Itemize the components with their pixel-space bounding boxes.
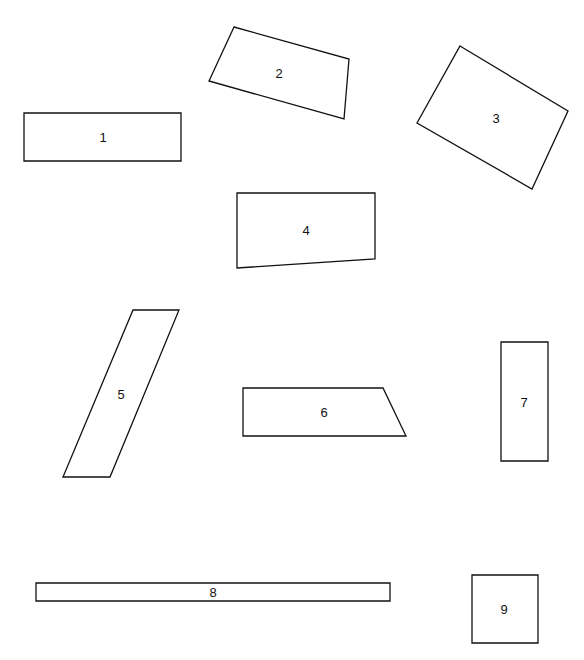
shape-label: 9 <box>500 602 507 617</box>
shape-label: 7 <box>520 395 527 410</box>
shape-1: 1 <box>24 113 181 161</box>
shape-7: 7 <box>501 342 548 461</box>
shape-label: 5 <box>117 387 124 402</box>
shape-9: 9 <box>472 575 538 643</box>
shape-2: 2 <box>209 27 349 119</box>
shape-label: 2 <box>275 66 282 81</box>
shape-3: 3 <box>417 46 568 189</box>
shape-label: 4 <box>302 223 309 238</box>
shape-label: 8 <box>209 585 216 600</box>
shape-label: 1 <box>99 130 106 145</box>
shape-4: 4 <box>237 193 375 268</box>
shapes-layer: 123456789 <box>24 27 568 643</box>
shape-5: 5 <box>63 310 179 477</box>
shape-label: 6 <box>320 405 327 420</box>
shape-8: 8 <box>36 583 390 601</box>
shape-label: 3 <box>492 111 499 126</box>
shapes-diagram: 123456789 <box>0 0 584 660</box>
shape-6: 6 <box>243 388 406 436</box>
